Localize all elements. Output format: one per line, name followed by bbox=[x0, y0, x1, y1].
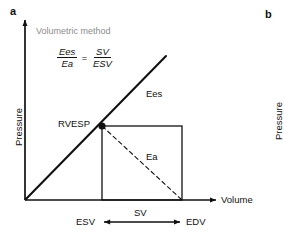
formula-right-denominator: ESV bbox=[91, 58, 114, 68]
ees-line bbox=[26, 56, 167, 200]
panel-a-title: Volumetric method bbox=[36, 27, 111, 36]
rvesp-label: RVESP bbox=[58, 119, 90, 129]
panel-b-letter: b bbox=[265, 9, 272, 20]
formula-left-denominator: Ea bbox=[59, 58, 75, 68]
formula-left-numerator: Ees bbox=[57, 47, 77, 58]
formula-right-fraction: SV ESV bbox=[91, 47, 114, 69]
esv-label: ESV bbox=[76, 217, 95, 227]
ees-label: Ees bbox=[146, 89, 162, 99]
formula-left-fraction: Ees Ea bbox=[57, 47, 77, 69]
rvesp-point-marker bbox=[98, 122, 105, 129]
ea-label: Ea bbox=[146, 152, 158, 162]
edv-label: EDV bbox=[186, 217, 206, 227]
ea-line bbox=[102, 126, 182, 200]
panel-a-letter: a bbox=[10, 6, 16, 17]
panel-a-y-axis-label: Pressure bbox=[14, 108, 24, 146]
formula-ees-ea-sv-esv: Ees Ea = SV ESV bbox=[57, 47, 114, 69]
panel-a-x-axis-label: Volume bbox=[221, 195, 253, 205]
sv-label: SV bbox=[134, 208, 147, 218]
panel-b-y-axis-label: Pressure bbox=[274, 102, 284, 140]
formula-operator: = bbox=[80, 52, 88, 63]
formula-right-numerator: SV bbox=[94, 47, 111, 58]
figure-container: a Volumetric method Ees Ea = SV ESV Pres… bbox=[0, 0, 284, 237]
